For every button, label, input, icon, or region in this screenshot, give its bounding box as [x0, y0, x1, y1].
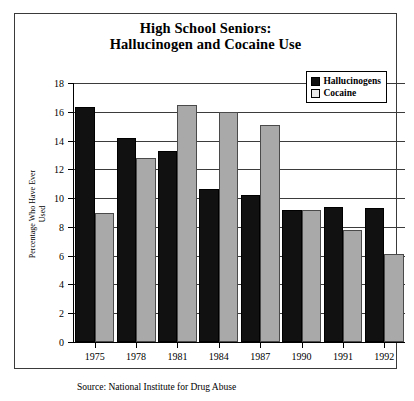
figure-frame: High School Seniors: Hallucinogen and Co… — [14, 13, 397, 369]
chart-title-line-2: Hallucinogen and Cocaine Use — [15, 36, 396, 52]
bar-hallucinogens-1981 — [158, 151, 177, 342]
x-axis-tick — [177, 342, 178, 348]
y-axis-tick-label: 12 — [54, 164, 64, 175]
x-axis-tick — [260, 342, 261, 348]
bar-group: 1981 — [157, 83, 198, 342]
y-axis-tick-label: 18 — [54, 78, 64, 89]
x-axis-tick-label: 1990 — [292, 351, 312, 362]
source-note: Source: National Institute for Drug Abus… — [77, 382, 236, 392]
x-axis-tick-label: 1992 — [374, 351, 394, 362]
y-axis-tick-label: 4 — [59, 279, 64, 290]
bar-group: 1978 — [115, 83, 156, 342]
plot-area: 181614121086420 197519781981198419871990… — [73, 83, 405, 343]
x-axis-tick — [302, 342, 303, 348]
chart-title-line-1: High School Seniors: — [140, 20, 272, 36]
chart-title: High School Seniors: Hallucinogen and Co… — [15, 20, 396, 52]
x-axis-tick-label: 1987 — [250, 351, 270, 362]
legend-item-cocaine: Cocaine — [311, 87, 381, 99]
bar-group: 1987 — [240, 83, 281, 342]
bar-cocaine-1978 — [136, 158, 155, 342]
y-axis-tick-label: 16 — [54, 106, 64, 117]
bar-hallucinogens-1991 — [324, 207, 343, 342]
y-axis-tick — [68, 342, 74, 343]
legend-item-hallucinogens: Hallucinogens — [311, 75, 381, 87]
bar-hallucinogens-1987 — [241, 195, 260, 342]
bar-hallucinogens-1992 — [365, 208, 384, 342]
bar-hallucinogens-1975 — [75, 107, 94, 342]
legend-label-cocaine: Cocaine — [323, 87, 356, 99]
x-axis-tick-label: 1978 — [126, 351, 146, 362]
y-axis-tick-label: 2 — [59, 308, 64, 319]
legend-swatch-icon-hallucinogens — [311, 77, 320, 86]
y-axis-title-line-2: Used — [38, 170, 48, 258]
bar-group: 1991 — [322, 83, 363, 342]
x-axis-tick — [384, 342, 385, 348]
x-axis-tick — [95, 342, 96, 348]
bar-cocaine-1987 — [260, 125, 279, 342]
y-axis-tick-label: 8 — [59, 221, 64, 232]
bar-hallucinogens-1990 — [282, 210, 301, 342]
chart-screenshot: High School Seniors: Hallucinogen and Co… — [0, 0, 414, 401]
legend-swatch-icon-cocaine — [311, 89, 320, 98]
x-axis-tick — [136, 342, 137, 348]
bar-cocaine-1992 — [384, 254, 403, 342]
bar-group: 1992 — [364, 83, 405, 342]
x-axis-tick — [219, 342, 220, 348]
y-axis-tick-label: 0 — [59, 337, 64, 348]
bar-hallucinogens-1984 — [199, 189, 218, 342]
y-axis-title: Percentage Who Have Ever Used — [28, 170, 48, 258]
y-axis-title-line-1: Percentage Who Have Ever — [28, 170, 38, 258]
bar-groups: 19751978198119841987199019911992 — [74, 83, 405, 342]
x-axis-tick-label: 1991 — [333, 351, 353, 362]
x-axis-tick-label: 1984 — [209, 351, 229, 362]
bar-group: 1984 — [198, 83, 239, 342]
bar-group: 1975 — [74, 83, 115, 342]
x-axis-tick — [343, 342, 344, 348]
y-axis-tick-label: 10 — [54, 193, 64, 204]
bar-cocaine-1984 — [219, 112, 238, 342]
y-axis-tick-label: 6 — [59, 250, 64, 261]
bar-group: 1990 — [281, 83, 322, 342]
bar-cocaine-1990 — [302, 210, 321, 342]
y-axis-tick-label: 14 — [54, 135, 64, 146]
bar-hallucinogens-1978 — [117, 138, 136, 342]
bar-cocaine-1975 — [95, 213, 114, 343]
x-axis-tick-label: 1975 — [85, 351, 105, 362]
bar-cocaine-1991 — [343, 230, 362, 342]
legend-label-hallucinogens: Hallucinogens — [323, 75, 381, 87]
bar-cocaine-1981 — [177, 105, 196, 342]
legend: Hallucinogens Cocaine — [306, 71, 387, 103]
x-axis-tick-label: 1981 — [167, 351, 187, 362]
